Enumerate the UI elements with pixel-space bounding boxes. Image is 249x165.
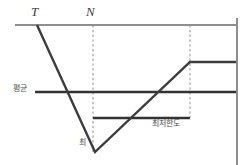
lower-band-label: 최저한도 [152,120,180,128]
marker-label-t: T [31,5,38,18]
trajectory-polyline [37,25,237,152]
trough-label: 최 [79,139,86,147]
vertical-guides [93,25,190,152]
mean-level-label: 평균 [13,85,27,93]
marker-label-n: N [86,5,95,18]
reference-levels [15,25,237,118]
series-trajectory [37,25,237,152]
chart-canvas [0,0,249,165]
chart-figure: T N 평균 최 최저한도 [0,0,249,165]
